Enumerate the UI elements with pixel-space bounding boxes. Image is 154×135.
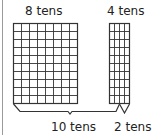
grids-and-brackets [0, 0, 154, 135]
left-tens-grid [14, 24, 78, 104]
place-value-diagram: 8 tens 4 tens [0, 0, 154, 135]
ten-tens-bracket [14, 104, 120, 114]
ten-tens-label: 10 tens [51, 121, 96, 133]
right-tens-grid [110, 24, 130, 104]
two-tens-label: 2 tens [114, 121, 151, 133]
two-tens-bracket [120, 104, 130, 113]
